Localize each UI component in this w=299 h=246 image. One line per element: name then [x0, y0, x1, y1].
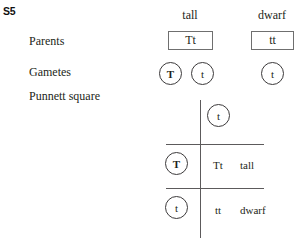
row-label-punnett-square: Punnett square — [29, 89, 100, 104]
row-label-parents: Parents — [29, 34, 64, 49]
punnett-left-gamete-T: T — [165, 152, 188, 175]
column-heading-tall: tall — [168, 8, 212, 23]
gamete-circle-tall-parent-T: T — [159, 62, 182, 85]
punnett-left-gamete-t: t — [165, 196, 188, 219]
offspring-phenotype-row-1: tall — [240, 159, 282, 171]
punnett-top-gamete-t: t — [207, 104, 230, 127]
figure-id-label: S5 — [3, 5, 15, 17]
parent-genotype-box-dwarf: tt — [251, 31, 294, 50]
offspring-phenotype-row-2: dwarf — [240, 204, 286, 216]
parent-genotype-box-tall: Tt — [168, 31, 213, 50]
offspring-genotype-row-2: tt — [200, 204, 236, 216]
row-label-gametes: Gametes — [29, 65, 71, 80]
punnett-grid-horizontal-line-top — [166, 144, 264, 145]
gamete-circle-dwarf-parent-t: t — [261, 62, 284, 85]
gamete-circle-tall-parent-t: t — [191, 62, 214, 85]
genetics-cross-figure: S5 tall dwarf Parents Gametes Punnett sq… — [0, 0, 299, 246]
punnett-grid-horizontal-line-bottom — [166, 188, 264, 189]
offspring-genotype-row-1: Tt — [200, 159, 236, 171]
column-heading-dwarf: dwarf — [249, 8, 295, 23]
